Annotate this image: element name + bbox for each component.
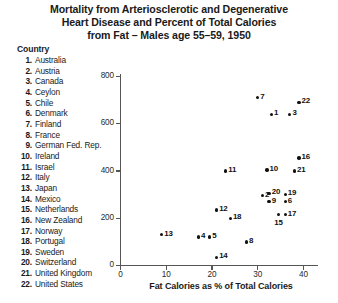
data-point-21[interactable]: [293, 169, 296, 172]
data-point-22[interactable]: [297, 101, 300, 104]
y-tick-mark: [116, 170, 121, 171]
data-point-8[interactable]: [245, 240, 248, 243]
data-point-label-8: 8: [249, 236, 253, 245]
y-tick-label: 600: [88, 118, 114, 127]
data-point-15[interactable]: [277, 213, 280, 216]
data-point-label-19: 19: [288, 188, 296, 197]
y-tick-mark: [116, 218, 121, 219]
x-axis-title: Fat Calories as % of Total Calories: [120, 281, 322, 291]
x-tick-label: 10: [153, 270, 179, 279]
y-tick-mark: [116, 123, 121, 124]
data-point-1[interactable]: [270, 113, 273, 116]
data-point-label-16: 16: [302, 152, 310, 161]
data-point-16[interactable]: [297, 156, 300, 159]
data-point-10[interactable]: [265, 168, 268, 171]
data-point-label-5: 5: [212, 231, 216, 240]
data-point-label-20: 20: [272, 187, 280, 196]
x-tick-label: 0: [108, 270, 134, 279]
x-tick-label: 30: [245, 270, 271, 279]
chart-page: Mortality from Arteriosclerotic and Dege…: [0, 0, 338, 303]
plot-area: 0200400600800010203040 12345678910111213…: [0, 0, 338, 303]
data-point-label-17: 17: [288, 209, 296, 218]
data-point-label-22: 22: [302, 96, 310, 105]
x-tick-label: 20: [199, 270, 225, 279]
data-point-14[interactable]: [215, 256, 218, 259]
data-point-19[interactable]: [284, 193, 287, 196]
data-point-2[interactable]: [261, 194, 264, 197]
y-tick-label: 400: [88, 166, 114, 175]
data-point-label-4: 4: [201, 231, 205, 240]
y-tick-label: 200: [88, 213, 114, 222]
data-point-9[interactable]: [267, 200, 270, 203]
data-point-label-10: 10: [270, 164, 278, 173]
data-point-3[interactable]: [288, 113, 291, 116]
x-axis-line: [120, 265, 318, 266]
data-point-11[interactable]: [224, 169, 227, 172]
data-point-label-3: 3: [292, 108, 296, 117]
data-point-label-18: 18: [233, 212, 241, 221]
y-tick-mark: [116, 76, 121, 77]
data-point-17[interactable]: [284, 213, 287, 216]
data-point-7[interactable]: [256, 96, 259, 99]
data-point-label-21: 21: [297, 165, 305, 174]
data-point-13[interactable]: [160, 233, 163, 236]
data-point-18[interactable]: [229, 217, 232, 220]
data-point-label-9: 9: [272, 196, 276, 205]
data-point-6[interactable]: [284, 200, 287, 203]
data-point-label-12: 12: [219, 204, 227, 213]
data-point-label-1: 1: [274, 108, 278, 117]
data-point-label-7: 7: [260, 92, 264, 101]
data-point-5[interactable]: [208, 235, 211, 238]
x-tick-label: 40: [291, 270, 317, 279]
y-tick-label: 0: [88, 260, 114, 269]
data-point-label-11: 11: [228, 165, 236, 174]
data-point-label-15: 15: [274, 218, 282, 227]
data-point-20[interactable]: [267, 192, 270, 195]
data-point-4[interactable]: [197, 235, 200, 238]
data-point-12[interactable]: [215, 208, 218, 211]
y-tick-label: 800: [88, 71, 114, 80]
data-point-label-13: 13: [164, 229, 172, 238]
data-point-label-14: 14: [219, 251, 227, 260]
